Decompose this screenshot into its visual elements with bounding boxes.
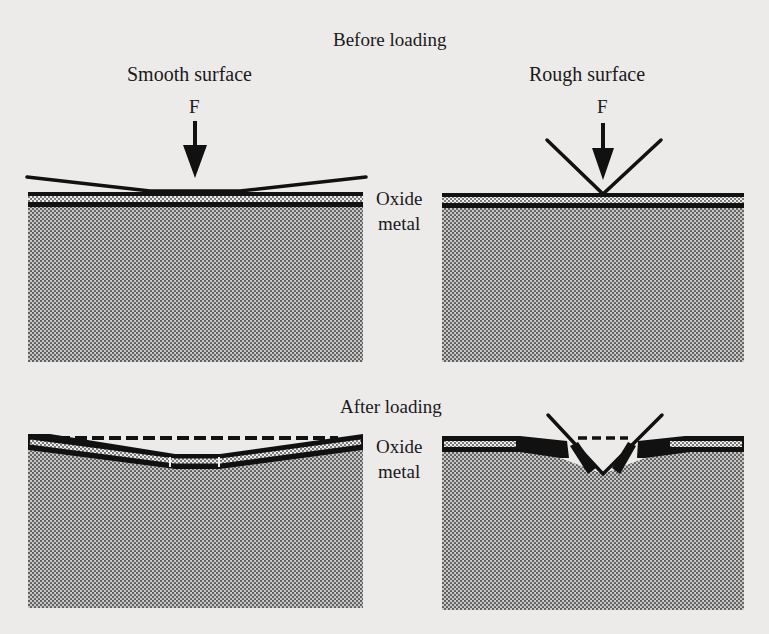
oxide-core-right [670, 441, 742, 447]
oxide-label-before: Oxide [376, 189, 422, 208]
before-loading-title: Before loading [333, 30, 446, 49]
oxide-core-left [444, 441, 516, 447]
before-smooth-specimen [27, 121, 366, 362]
after-rough-specimen [442, 415, 744, 610]
metal-label-before: metal [378, 214, 420, 233]
smooth-surface-label: Smooth surface [127, 64, 252, 84]
after-loading-title: After loading [340, 397, 442, 416]
force-arrow-icon [592, 123, 614, 180]
diagram-canvas [0, 0, 769, 634]
metal-block [28, 207, 363, 362]
after-smooth-specimen [28, 434, 363, 608]
rough-surface-label: Rough surface [529, 64, 645, 84]
oxide-layer-core [442, 197, 744, 203]
metal-label-after: metal [378, 462, 420, 481]
force-arrow-icon [183, 121, 207, 178]
metal-block [28, 450, 363, 608]
oxide-layer-core [28, 196, 363, 202]
smooth-indenter [27, 177, 366, 191]
force-label-left: F [189, 97, 200, 116]
force-label-right: F [597, 97, 608, 116]
metal-block [442, 208, 744, 362]
metal-block [442, 450, 744, 610]
before-rough-specimen [442, 123, 744, 362]
oxide-label-after: Oxide [376, 437, 422, 456]
